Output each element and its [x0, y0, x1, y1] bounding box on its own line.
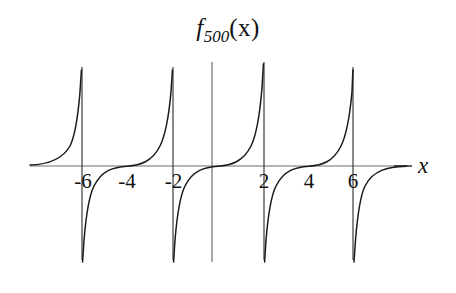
curve-branch-4: [354, 166, 406, 262]
figure-container: f500(x) x -6 -4 -2 2 4 6: [0, 0, 456, 293]
curve-branch-2: [174, 64, 264, 262]
asymptote-group: [82, 62, 353, 260]
function-curve: [30, 64, 406, 262]
plot-canvas: [0, 0, 456, 293]
curve-branch-0: [30, 70, 81, 165]
